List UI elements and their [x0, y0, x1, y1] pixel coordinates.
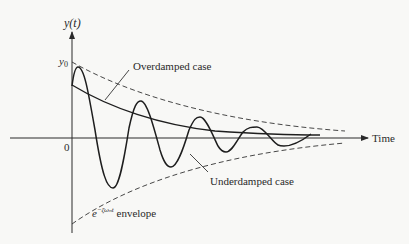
overdamped-curve [72, 85, 320, 135]
time-axis-label: Time [372, 133, 395, 144]
envelope-exponent: −ζωₙt [97, 206, 114, 214]
diagram-svg [0, 0, 409, 244]
y-axis-label: y(t) [64, 17, 81, 29]
underdamped-label: Underdamped case [210, 176, 294, 187]
envelope-label: e−ζωₙt envelope [92, 207, 156, 219]
overdamped-label: Overdamped case [133, 61, 212, 72]
damped-response-diagram: y(t) y0 Overdamped case 0 Time Underdamp… [0, 0, 409, 244]
upper-envelope-curve [72, 62, 345, 131]
origin-label: 0 [64, 142, 70, 153]
underdamped-leader [190, 154, 208, 172]
envelope-word: envelope [117, 207, 157, 219]
initial-value-label: y0 [59, 56, 68, 69]
overdamped-leader [105, 70, 129, 100]
